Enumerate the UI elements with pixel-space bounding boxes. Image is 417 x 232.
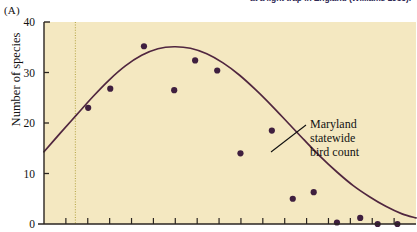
plot-background	[44, 22, 416, 224]
svg-text:40: 40	[24, 16, 36, 28]
svg-text:Maryland: Maryland	[310, 117, 357, 131]
svg-text:10: 10	[24, 168, 36, 180]
svg-text:statewide: statewide	[310, 131, 355, 145]
svg-text:0: 0	[29, 218, 35, 230]
svg-text:20: 20	[24, 117, 36, 129]
chart-plot: 010203040 Marylandstatewidebird count	[0, 0, 417, 232]
svg-text:30: 30	[24, 67, 36, 79]
figure-panel-a: at a light trap in England (Williams 195…	[0, 0, 417, 232]
svg-text:bird count: bird count	[310, 145, 360, 159]
